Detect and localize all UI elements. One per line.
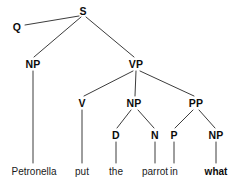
tree-branch-S-to-NP1	[34, 17, 81, 57]
tree-node-p: P	[170, 130, 177, 141]
syntax-tree-diagram: SQNPVPVNPPPDNPNP Petronellaputtheparroti…	[0, 0, 247, 187]
tree-terminal-parrot: parrot	[142, 167, 168, 177]
tree-node-d: D	[112, 130, 120, 141]
tree-branch-NP2-to-D	[117, 110, 131, 128]
tree-node-vp: VP	[129, 59, 143, 70]
tree-branch-S-to-VP	[86, 17, 134, 57]
tree-branch-VP-to-V	[84, 71, 133, 96]
tree-node-n: N	[151, 130, 159, 141]
tree-node-np1: NP	[26, 59, 41, 70]
tree-branch-Q-to-S	[25, 16, 79, 25]
tree-terminal-what: what	[205, 167, 228, 177]
tree-branch-PP-to-NP3	[199, 110, 215, 128]
tree-branch-NP2-to-N	[138, 110, 154, 128]
tree-node-q: Q	[13, 22, 21, 33]
branch-group	[25, 16, 216, 163]
tree-node-s: S	[79, 6, 86, 17]
tree-terminal-petronella: Petronella	[11, 167, 56, 177]
tree-branch-PP-to-P	[175, 110, 193, 128]
tree-branch-layer	[0, 0, 247, 187]
tree-node-v: V	[78, 98, 85, 109]
tree-branch-VP-to-PP	[140, 71, 194, 96]
tree-node-np2: NP	[127, 98, 142, 109]
tree-terminal-in: in	[170, 167, 178, 177]
tree-node-np3: NP	[209, 130, 224, 141]
tree-branch-VP-to-NP2	[135, 71, 136, 96]
tree-node-pp: PP	[189, 98, 203, 109]
tree-terminal-the: the	[109, 167, 123, 177]
tree-terminal-put: put	[75, 167, 89, 177]
